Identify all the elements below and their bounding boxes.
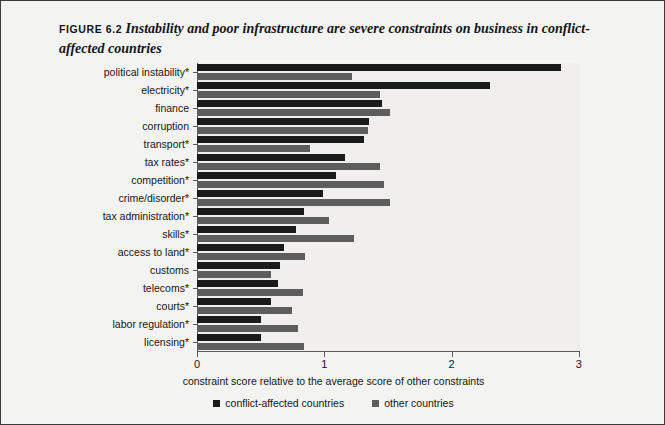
x-axis-tick [579,351,580,357]
y-axis-label-5: transport* [1,138,189,150]
x-axis-tick [197,351,198,357]
bar-other [197,199,390,206]
bar-other [197,145,310,152]
y-axis-label-11: access to land* [1,246,189,258]
bar-row: electricity* [1,82,664,100]
bar-other [197,271,271,278]
bar-conflict [197,262,280,269]
bar-conflict [197,64,561,71]
bar-row: skills* [1,226,664,244]
y-axis-label-10: skills* [1,228,189,240]
bar-conflict [197,316,261,323]
y-axis-label-13: telecoms* [1,282,189,294]
y-axis-label-6: tax rates* [1,156,189,168]
bar-other [197,163,380,170]
bar-other [197,73,352,80]
bar-other [197,127,368,134]
bar-row: licensing* [1,334,664,352]
y-axis-label-15: labor regulation* [1,318,189,330]
y-axis-label-8: crime/disorder* [1,192,189,204]
bar-row: finance [1,100,664,118]
bar-conflict [197,154,345,161]
y-axis-label-7: competition* [1,174,189,186]
figure-panel: FIGURE 6.2 Instability and poor infrastr… [0,0,665,425]
page-title: Instability and poor infrastructure are … [59,21,590,56]
bar-conflict [197,172,336,179]
legend-swatch-icon [213,400,220,407]
bar-row: competition* [1,172,664,190]
bar-conflict [197,100,382,107]
bar-row: labor regulation* [1,316,664,334]
bar-other [197,91,380,98]
bar-conflict [197,118,369,125]
x-axis-tick-label: 2 [449,358,455,370]
y-axis-label-4: corruption [1,120,189,132]
legend-item-2[interactable]: other countries [372,397,453,409]
bar-other [197,289,303,296]
bar-conflict [197,190,323,197]
y-axis-label-2: electricity* [1,84,189,96]
bar-conflict [197,208,304,215]
bar-conflict [197,244,284,251]
x-axis-tick [324,351,325,357]
figure-label: FIGURE 6.2 [59,23,122,35]
y-axis-label-12: customs [1,264,189,276]
bar-conflict [197,298,271,305]
bar-other [197,343,304,350]
x-axis-label: constraint score relative to the average… [1,375,665,387]
y-axis-label-16: licensing* [1,336,189,348]
bar-other [197,253,305,260]
bar-row: political instability* [1,64,664,82]
x-axis-tick-label: 1 [321,358,327,370]
bar-conflict [197,280,278,287]
y-axis-label-9: tax administration* [1,210,189,222]
bar-conflict [197,82,490,89]
bar-other [197,181,384,188]
bar-conflict [197,136,364,143]
bar-row: access to land* [1,244,664,262]
bar-row: customs [1,262,664,280]
bar-row: tax rates* [1,154,664,172]
figure-title-block: FIGURE 6.2 Instability and poor infrastr… [59,19,599,58]
y-axis-label-14: courts* [1,300,189,312]
bar-row: courts* [1,298,664,316]
bar-row: transport* [1,136,664,154]
y-axis-label-3: finance [1,102,189,114]
bar-other [197,307,292,314]
bar-conflict [197,334,261,341]
bar-conflict [197,226,296,233]
bar-other [197,109,390,116]
bar-other [197,325,298,332]
bar-other [197,217,329,224]
bar-row: tax administration* [1,208,664,226]
legend-swatch-icon [372,400,379,407]
chart-legend: conflict-affected countriesother countri… [1,397,665,409]
legend-label: conflict-affected countries [225,397,344,409]
bar-row: corruption [1,118,664,136]
legend-item-1[interactable]: conflict-affected countries [213,397,344,409]
bar-row: crime/disorder* [1,190,664,208]
bar-row: telecoms* [1,280,664,298]
x-axis-tick-label: 3 [576,358,582,370]
legend-label: other countries [384,397,453,409]
x-axis-tick-label: 0 [194,358,200,370]
bar-other [197,235,354,242]
x-axis-tick [452,351,453,357]
y-axis-label-1: political instability* [1,66,189,78]
